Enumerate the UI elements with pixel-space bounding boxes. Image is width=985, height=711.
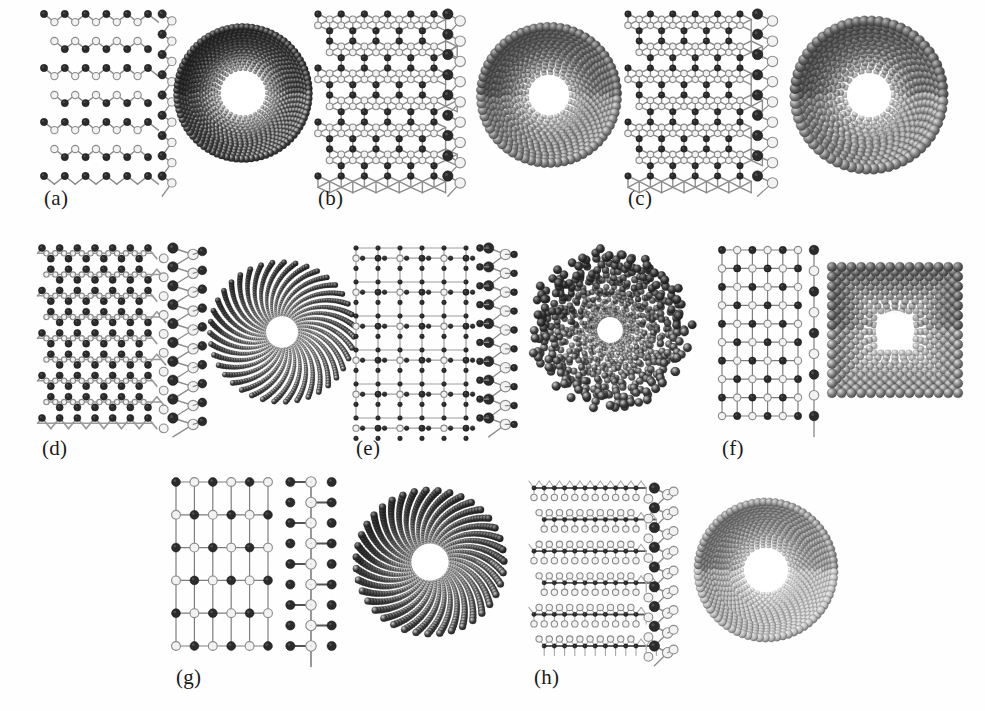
lattice-top-view-f: [722, 250, 798, 416]
lattice-side-view-e: [478, 248, 516, 418]
panel-label-a: (a): [44, 186, 68, 211]
lattice-top-view-h: [534, 488, 636, 646]
lattice-top-view-d: [42, 248, 148, 418]
panel-label-h: (h): [534, 665, 559, 690]
lattice-top-view-a: [44, 14, 148, 176]
nanotube-end-view-a: [164, 14, 322, 172]
nanotube-end-view-h: [685, 489, 847, 651]
panel-label-d: (d): [42, 436, 67, 461]
lattice-side-view-c: [748, 14, 782, 176]
nanotube-end-view-g: [343, 475, 517, 649]
nanotube-end-view-c: [782, 8, 956, 182]
lattice-top-view-b: [318, 14, 434, 176]
lattice-side-view-g: [280, 482, 342, 646]
nanotube-end-view-f: [819, 254, 971, 406]
lattice-side-view-b: [440, 14, 468, 176]
lattice-top-view-g: [176, 482, 268, 646]
nanotube-end-view-b: [468, 14, 630, 176]
panel-label-c: (c): [628, 186, 652, 211]
nanotube-end-view-d: [197, 247, 367, 417]
lattice-top-view-c: [628, 14, 740, 176]
panel-label-b: (b): [318, 186, 343, 211]
panel-label-g: (g): [176, 665, 201, 690]
lattice-side-view-h: [646, 488, 676, 646]
panel-label-f: (f): [722, 436, 744, 461]
nanotube-end-view-e: [521, 241, 699, 419]
figure-canvas: (a)(b)(c)(d)(e)(f)(g)(h): [0, 0, 985, 711]
panel-label-e: (e): [356, 436, 380, 461]
lattice-top-view-e: [356, 248, 466, 418]
